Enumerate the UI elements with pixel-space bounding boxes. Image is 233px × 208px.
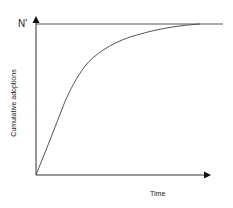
asymptote-label: N' [18,18,27,29]
adoption-curve [36,24,200,175]
y-axis-label: Cumulative adoptions [10,69,18,137]
x-axis-arrow-icon [204,172,211,179]
y-axis-arrow-icon [33,16,40,23]
diffusion-chart: N' Time Cumulative adoptions [0,0,233,208]
x-axis-label: Time [150,190,165,197]
